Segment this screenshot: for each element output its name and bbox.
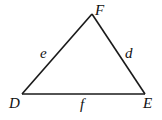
side-label-d: d bbox=[125, 45, 133, 61]
side-e bbox=[22, 14, 92, 94]
vertex-label-d: D bbox=[8, 95, 20, 111]
triangle-diagram: D E F e d f bbox=[0, 0, 162, 120]
side-label-f: f bbox=[80, 96, 86, 112]
vertex-label-e: E bbox=[142, 95, 152, 111]
side-d bbox=[92, 14, 145, 94]
vertex-label-f: F bbox=[94, 2, 105, 18]
side-label-e: e bbox=[40, 45, 47, 61]
